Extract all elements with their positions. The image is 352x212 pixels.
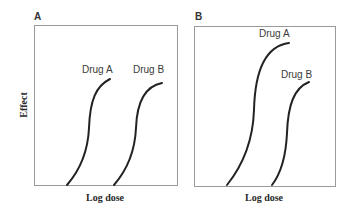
panel-b-x-axis-label: Log dose bbox=[245, 192, 284, 203]
panel-a-drug-a-curve bbox=[67, 79, 110, 185]
y-axis-label: Effect bbox=[18, 92, 29, 118]
panel-b-frame bbox=[195, 27, 336, 187]
panel-b-drug-a-curve bbox=[227, 43, 289, 185]
panel-a-frame bbox=[35, 26, 178, 186]
panel-b: B Drug A Drug B Log dose bbox=[195, 11, 336, 203]
panel-a: A Drug A Drug B Effect Log dose bbox=[18, 11, 178, 203]
panel-b-drug-a-label: Drug A bbox=[259, 28, 290, 39]
panel-a-letter: A bbox=[34, 11, 41, 22]
panel-a-drug-b-curve bbox=[114, 83, 162, 185]
panel-b-drug-b-curve bbox=[272, 82, 309, 185]
panel-a-x-axis-label: Log dose bbox=[86, 192, 125, 203]
panel-b-drug-b-label: Drug B bbox=[281, 69, 312, 80]
panel-a-drug-b-label: Drug B bbox=[133, 64, 164, 75]
panel-a-drug-a-label: Drug A bbox=[82, 64, 113, 75]
figure-canvas: A Drug A Drug B Effect Log dose B Drug A… bbox=[0, 0, 352, 212]
panel-b-letter: B bbox=[195, 11, 202, 22]
